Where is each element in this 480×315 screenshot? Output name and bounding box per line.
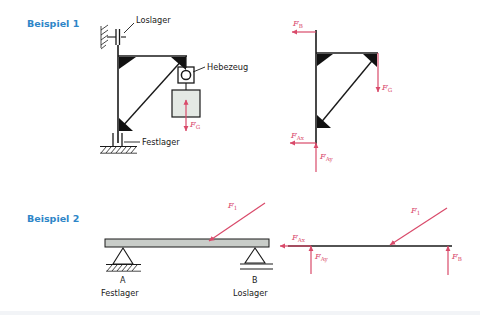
gusset-bottom-left: [119, 118, 133, 131]
fb2-force-fax-label: FAx: [291, 232, 306, 243]
festlager-ground-hatching: [100, 147, 137, 153]
fb1-force-fay-label: FAy: [319, 151, 334, 163]
fb2-force-fay-label: FAy: [314, 251, 329, 263]
support-a-node-label: A: [120, 276, 126, 285]
fb2-force-f1-label: F1: [410, 205, 420, 216]
support-b-loslager: [240, 248, 273, 269]
support-a-type-label: Festlager: [101, 288, 139, 298]
example2-system-sketch: A Festlager B Loslager F1: [101, 200, 273, 298]
example2-title: Beispiel 2: [27, 213, 79, 224]
beam-member: [105, 239, 269, 247]
loslager-symbol: [107, 29, 126, 45]
bottom-strip: [0, 311, 480, 315]
loslager-wall-hatching: [101, 25, 108, 49]
fb1-force-fax-label: FAx: [290, 130, 305, 141]
support-a-festlager: [106, 248, 141, 271]
fb2-force-fb-label: FB: [451, 251, 462, 262]
support-b-node-label: B: [252, 276, 258, 285]
force-fg-label: FG: [189, 119, 201, 130]
statics-diagram-svg: Beispiel 1 Loslager: [0, 0, 480, 315]
gusset-top-left: [119, 57, 136, 69]
hebezeug-label: Hebezeug: [207, 62, 248, 72]
support-b-type-label: Loslager: [233, 288, 268, 298]
hebezeug-leader-line: [193, 67, 205, 72]
loslager-label: Loslager: [136, 15, 171, 25]
loslager-leader-line: [124, 23, 134, 33]
fb1-gusset-top-left: [317, 54, 333, 66]
example1-system-sketch: Loslager Fes: [100, 15, 248, 153]
example1-freebody-diagram: FB FG FAx FAy: [290, 18, 393, 172]
diagram-canvas: Beispiel 1 Loslager: [0, 0, 480, 315]
example2-freebody-diagram: FAx FAy F1 FB: [280, 205, 462, 275]
example1-title: Beispiel 1: [27, 18, 79, 29]
festlager-label: Festlager: [142, 137, 180, 147]
fb1-diagonal-brace: [319, 56, 376, 125]
fb1-force-fb-label: FB: [292, 18, 303, 29]
fb1-gusset-bottom-left: [317, 115, 331, 128]
force-f1-label: F1: [227, 200, 237, 211]
fb1-gusset-top-right: [363, 54, 377, 67]
fb1-force-fg-label: FG: [381, 82, 393, 93]
